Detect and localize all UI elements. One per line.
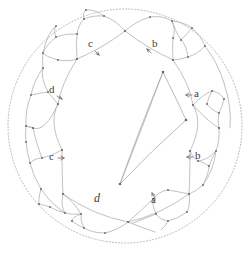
geodesic-arc <box>30 158 42 163</box>
vertex-dot <box>218 112 220 114</box>
geodesic-arc <box>41 189 65 213</box>
vertex-dot <box>155 213 157 215</box>
vertex-dot <box>127 221 129 223</box>
geodesic-arc <box>212 91 224 99</box>
vertex-dot <box>186 211 188 213</box>
vertex-dot <box>40 188 42 190</box>
vertex-dot <box>62 193 64 195</box>
vertex-dot <box>202 184 204 186</box>
geodesic-arc <box>161 221 168 230</box>
label-arrow-group <box>57 49 193 198</box>
vertex-dot <box>215 150 217 152</box>
geodesic-arc <box>189 151 190 194</box>
edge-label-c-left: c <box>49 151 54 162</box>
geodesic-arc <box>128 222 155 232</box>
core-vertex-dot <box>119 183 122 186</box>
vertex-dot <box>208 165 210 167</box>
geodesic-arc <box>216 128 219 151</box>
geodesic-arc <box>84 16 104 19</box>
geodesic-arc <box>207 104 219 113</box>
vertex-dot <box>104 232 106 234</box>
vertex-dot <box>42 67 44 69</box>
vertex-dot <box>38 203 40 205</box>
geodesic-arc <box>77 19 84 34</box>
geodesic-arc <box>104 16 125 31</box>
vertex-dot <box>61 149 63 151</box>
vertex-dot <box>188 193 190 195</box>
geodesic-arc <box>156 214 168 221</box>
vertex-dot <box>191 27 193 29</box>
geodesic-arc <box>31 92 48 95</box>
vertex-dot <box>41 157 43 159</box>
vertex-dot <box>167 220 169 222</box>
core-vertex-dot <box>185 119 188 122</box>
geodesic-arc <box>198 161 209 166</box>
geodesic-arc <box>128 194 189 222</box>
vertex-dot <box>103 15 105 17</box>
vertex-dot-group <box>25 9 225 234</box>
edge-label-d-bottom: d <box>94 192 100 204</box>
geodesic-arc <box>77 31 125 59</box>
geodesic-arc <box>42 68 48 92</box>
vertex-dot <box>83 18 85 20</box>
geodesic-arc <box>56 34 77 37</box>
geodesic-arc <box>43 53 58 60</box>
edge-label-a-right: a <box>194 88 199 99</box>
vertex-dot <box>211 90 213 92</box>
vertex-dot <box>64 212 66 214</box>
geodesic-arc <box>83 10 86 19</box>
geodesic-arc <box>77 34 78 59</box>
geodesic-arc <box>65 213 81 214</box>
geodesic-arc <box>26 126 27 142</box>
vertex-dot <box>76 33 78 35</box>
poincare-disk-diagram <box>0 0 251 253</box>
vertex-dot <box>71 220 73 222</box>
edge-label-d-left: d <box>49 84 55 95</box>
vertex-dot <box>80 213 82 215</box>
geodesic-arc <box>72 214 81 221</box>
geodesic-arc <box>181 40 188 57</box>
geodesic-arc <box>62 194 65 213</box>
geodesic-arc <box>30 163 41 189</box>
geodesic-arc <box>125 17 150 31</box>
vertex-dot <box>223 98 225 100</box>
geodesic-arc <box>189 185 203 194</box>
vertex-dot <box>124 30 126 32</box>
core-polygon-edge <box>120 120 186 184</box>
core-polygon-group <box>120 72 186 184</box>
hyperbolic-disk-figure: c b a d c b d a <box>0 0 251 253</box>
core-vertex-dot <box>162 71 165 74</box>
edge-label-c-top: c <box>88 38 93 49</box>
geodesic-arc <box>192 28 205 46</box>
geodesic-arc <box>224 83 230 128</box>
geodesic-arc <box>203 151 216 185</box>
vertex-dot <box>172 59 174 61</box>
vertex-dot <box>180 39 182 41</box>
geodesic-arc <box>84 228 105 233</box>
vertex-dot <box>85 9 87 11</box>
vertex-dot <box>57 103 59 105</box>
geodesic-arc <box>39 204 50 207</box>
geodesic-arc <box>26 142 30 163</box>
vertex-dot <box>172 37 174 39</box>
vertex-dot <box>76 58 78 60</box>
vertex-dot <box>218 127 220 129</box>
geodesic-arc <box>125 31 173 60</box>
core-polygon-edge <box>163 72 186 120</box>
geodesic-arc <box>43 53 44 68</box>
vertex-dot <box>25 125 27 127</box>
vertex-dot <box>49 206 51 208</box>
geodesic-arc <box>31 68 43 95</box>
geodesic-arc-group-primary <box>26 10 231 233</box>
vertex-dot <box>204 45 206 47</box>
vertex-dot <box>149 16 151 18</box>
geodesic-arc <box>190 105 198 151</box>
vertex-dot <box>55 36 57 38</box>
geodesic-arc <box>218 113 219 128</box>
geodesic-arc <box>81 214 84 228</box>
geodesic-arc <box>203 166 209 185</box>
vertex-dot <box>32 127 34 129</box>
edge-label-a-bottom: a <box>151 194 156 205</box>
vertex-dot <box>206 103 208 105</box>
geodesic-arc <box>205 46 224 83</box>
